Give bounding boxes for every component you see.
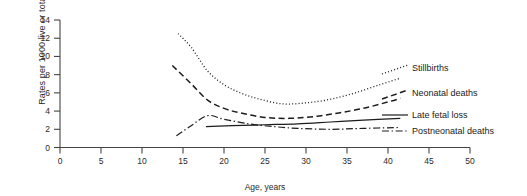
legend-sample-dotted <box>382 65 408 74</box>
series-line-dashed <box>172 66 400 119</box>
legend-label: Neonatal deaths <box>412 88 478 98</box>
x-tick-label: 0 <box>58 156 63 166</box>
legend-sample-dashed <box>382 90 408 99</box>
x-tick-group: 05101520253035404550 <box>58 148 475 167</box>
y-tick-label: 4 <box>45 106 50 116</box>
y-axis: 02468101214 <box>41 15 60 153</box>
x-tick-label: 30 <box>301 156 311 166</box>
x-tick-label: 35 <box>342 156 352 166</box>
x-tick-label: 5 <box>99 156 104 166</box>
x-tick-label: 10 <box>137 156 147 166</box>
y-tick-label: 6 <box>45 88 50 98</box>
legend-label: Stillbirths <box>412 63 449 73</box>
y-tick-label: 2 <box>45 124 50 134</box>
x-axis: 05101520253035404550 Age, years <box>58 148 475 193</box>
series-line-solid <box>206 118 400 126</box>
chart-figure: Rates per 1000 live or total births 0246… <box>0 0 527 196</box>
x-axis-title: Age, years <box>245 182 286 192</box>
y-tick-label: 14 <box>41 15 51 25</box>
legend-group: StillbirthsNeonatal deathsLate fetal los… <box>382 63 495 136</box>
legend-label: Late fetal loss <box>412 110 468 120</box>
y-tick-label: 8 <box>45 70 50 80</box>
x-tick-label: 20 <box>219 156 229 166</box>
y-tick-label: 0 <box>45 143 50 153</box>
x-tick-label: 25 <box>260 156 270 166</box>
y-tick-label: 10 <box>41 51 51 61</box>
legend-label: Postneonatal deaths <box>412 126 495 136</box>
series-group <box>172 34 400 136</box>
chart-svg: 02468101214 05101520253035404550 Age, ye… <box>0 0 527 196</box>
x-tick-label: 40 <box>383 156 393 166</box>
x-tick-label: 15 <box>178 156 188 166</box>
series-line-dotted <box>178 34 400 104</box>
x-tick-label: 50 <box>465 156 475 166</box>
y-tick-label: 12 <box>41 33 51 43</box>
y-tick-group: 02468101214 <box>41 15 60 153</box>
x-tick-label: 45 <box>424 156 434 166</box>
